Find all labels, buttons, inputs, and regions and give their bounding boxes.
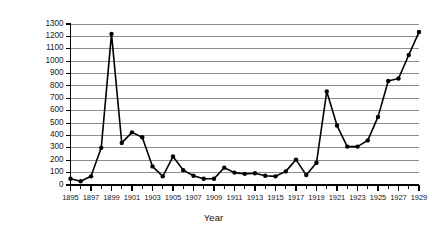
data-series-line: [71, 32, 420, 181]
data-point: [109, 32, 113, 36]
x-axis-ticks: [71, 185, 420, 191]
data-point: [161, 174, 165, 178]
data-point: [284, 169, 288, 173]
x-axis-title: Year: [0, 212, 427, 223]
data-point: [150, 164, 154, 168]
data-point: [222, 165, 226, 169]
data-point: [253, 171, 257, 175]
data-point: [212, 177, 216, 181]
data-point: [181, 168, 185, 172]
data-point: [130, 130, 134, 134]
data-point: [140, 135, 144, 139]
data-point: [335, 123, 339, 127]
data-point: [191, 174, 195, 178]
data-point: [325, 89, 329, 93]
data-point: [243, 172, 247, 176]
data-point: [314, 161, 318, 165]
data-point: [99, 146, 103, 150]
data-point: [273, 174, 277, 178]
data-point: [232, 170, 236, 174]
data-point: [171, 154, 175, 158]
data-point: [294, 157, 298, 161]
data-point: [366, 138, 370, 142]
data-point: [396, 76, 400, 80]
data-point: [120, 141, 124, 145]
data-point: [68, 177, 72, 181]
data-point: [304, 173, 308, 177]
y-axis-ticks: [66, 24, 71, 185]
data-point: [89, 174, 93, 178]
data-point: [355, 144, 359, 148]
data-point: [79, 179, 83, 183]
data-point: [263, 174, 267, 178]
data-point: [417, 30, 421, 34]
data-point: [386, 79, 390, 83]
grid-lines: [71, 24, 420, 173]
data-point: [376, 115, 380, 119]
data-point: [407, 53, 411, 57]
data-point: [345, 144, 349, 148]
data-point: [202, 177, 206, 181]
